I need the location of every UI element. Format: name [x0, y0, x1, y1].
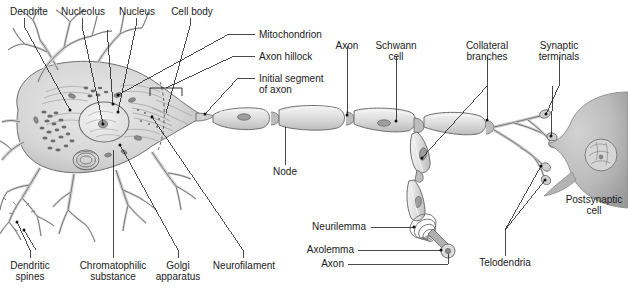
axon-core-end [445, 248, 450, 253]
postsynaptic-cell-group [544, 92, 628, 208]
label-neurilemma: Neurilemma [278, 221, 366, 232]
label-dendritic-line1: Dendritic [3, 260, 57, 271]
label-cell-body: Cell body [164, 6, 220, 17]
label-dendrite: Dendrite [0, 6, 58, 17]
label-golgi-line1: Golgi [152, 260, 204, 271]
label-axolemma: Axolemma [266, 244, 354, 255]
label-synaptic-line1: Synaptic [528, 40, 590, 51]
label-golgi-line2: apparatus [152, 271, 204, 282]
neuron-diagram-figure: Dendrite Nucleolus Nucleus Cell body Mit… [0, 0, 628, 290]
label-neurofilament: Neurofilament [204, 260, 284, 271]
postsynaptic-nucleolus [599, 155, 604, 160]
label-postsynaptic-line2: cell [561, 205, 627, 216]
myelin-internode-4 [424, 112, 486, 134]
label-axon-hillock: Axon hillock [259, 51, 312, 62]
label-schwann-line1: Schwann [369, 40, 423, 51]
label-node: Node [263, 166, 307, 177]
collateral-branch-descending [407, 132, 430, 221]
label-nucleus: Nucleus [111, 6, 163, 17]
label-mitochondrion: Mitochondrion [259, 29, 322, 40]
axon-and-myelin [196, 106, 559, 258]
label-dendritic-line2: spines [3, 271, 57, 282]
label-chromatophilic-line1: Chromatophilic [70, 260, 156, 271]
label-nucleolus: Nucleolus [54, 6, 112, 17]
collateral-branch-node [414, 118, 424, 133]
myelin-internode-1 [213, 108, 270, 130]
label-schwann-line2: cell [369, 51, 423, 62]
label-postsynaptic-line1: Postsynaptic [561, 194, 627, 205]
label-collateral-line2: branches [456, 51, 518, 62]
label-initial-segment-line1: Initial segment [259, 73, 323, 84]
label-telodendria: Telodendria [466, 257, 544, 268]
label-synaptic-line2: terminals [528, 51, 590, 62]
label-chromatophilic-line2: substance [70, 271, 156, 282]
node-of-ranvier-1 [271, 112, 279, 125]
myelin-internode-3-schwann-cell [354, 108, 416, 132]
node-of-ranvier-3 [486, 120, 494, 134]
myelin-internode-2 [279, 106, 345, 131]
label-initial-segment-line2: of axon [259, 84, 292, 95]
label-axon-top: Axon [324, 40, 370, 51]
label-collateral-line1: Collateral [456, 40, 518, 51]
